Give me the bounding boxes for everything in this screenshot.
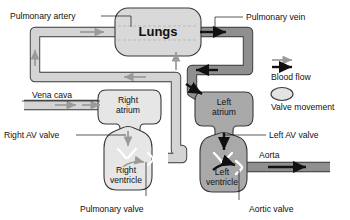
pulmonary-vein-label: Pulmonary vein: [246, 12, 305, 22]
legend-blood-flow-label: Blood flow: [271, 72, 311, 82]
circulation-diagram: Lungs Right atrium Right ventricle Left …: [0, 0, 350, 220]
left-atrium-label-line2: atrium: [212, 107, 236, 117]
legend-valve-oval-icon: [271, 88, 293, 101]
right-ventricle-label-line1: Right: [116, 165, 137, 175]
pulmonary-vein-leader: [215, 17, 243, 27]
left-ventricle-label-line2: ventricle: [206, 177, 238, 187]
right-atrium-label-line2: atrium: [116, 105, 140, 115]
right-av-valve-label: Right AV valve: [4, 130, 59, 140]
pulmonary-artery-label: Pulmonary artery: [10, 11, 76, 21]
vena-cava-label: Vena cava: [32, 90, 72, 100]
lungs-label: Lungs: [139, 24, 178, 39]
left-av-valve-label: Left AV valve: [269, 130, 319, 140]
aortic-valve-label: Aortic valve: [249, 204, 294, 214]
legend-valve-movement-label: Valve movement: [271, 102, 335, 112]
right-ventricle-label-line2: ventricle: [110, 175, 142, 185]
right-atrium-label-line1: Right: [118, 95, 139, 105]
aorta-label: Aorta: [259, 150, 280, 160]
left-atrium-label-line1: Left: [217, 97, 232, 107]
lungs-organ: Lungs: [115, 8, 201, 56]
pulmonary-valve-label: Pulmonary valve: [80, 204, 144, 214]
legend: Blood flow Valve movement: [271, 60, 335, 112]
